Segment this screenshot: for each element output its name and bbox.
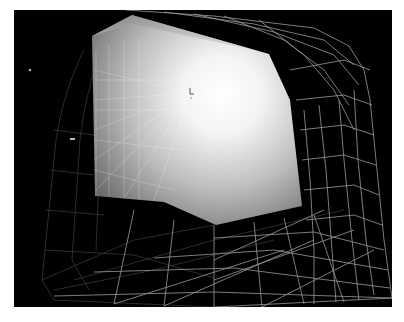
image-frame	[0, 0, 404, 322]
point-markers	[29, 69, 75, 140]
scene-canvas	[14, 10, 392, 307]
shaded-surface	[92, 15, 302, 225]
render-viewport	[14, 10, 392, 307]
